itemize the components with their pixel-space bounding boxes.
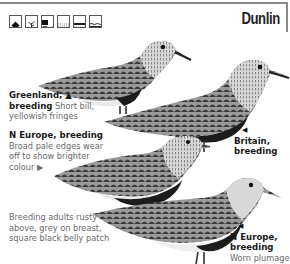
mudflat-icon [73,15,86,28]
caption-general-line3: square black belly patch [9,233,109,243]
caption-greenland-heading: Greenland, ▲ [9,90,72,100]
caption-n-europe-2-heading2: breeding [230,242,273,252]
caption-general-line1: Breeding adults rusty [9,212,97,222]
caption-britain-heading: Britain, [234,136,270,146]
marsh-icon [57,15,70,28]
tree-icon [25,15,38,28]
caption-greenland-text2: yellowish fringes [9,111,78,121]
caption-n-europe-1-line3: colour ▶ [9,162,43,172]
caption-britain: ◀ Britain, breeding [234,124,290,157]
page-border-right [286,2,288,32]
caption-greenland: Greenland, ▲ breeding Short bill, yellow… [9,90,129,122]
caption-britain-heading2: breeding [234,146,277,156]
caption-n-europe-2-heading: N Europe, [230,232,278,242]
caption-greenland-heading2: breeding [9,101,52,111]
caption-n-europe-2-text: Worn plumage [230,253,290,263]
caption-n-europe-1: N Europe, breeding Broad pale edges wear… [9,130,129,172]
caption-n-europe-1-line1: Broad pale edges wear [9,141,103,151]
caption-general: Breeding adults rusty above, grey on bre… [9,212,119,244]
house-icon [9,15,22,28]
caption-general-line2: above, grey on breast, [9,223,102,233]
page-border-top [0,2,288,4]
caption-n-europe-1-heading: N Europe, breeding [9,130,103,140]
species-title: Dunlin [242,10,280,28]
sea-icon [89,15,102,28]
caption-n-europe-1-line2: off to show brighter [9,151,90,161]
caption-n-europe-2: ◀ N Europe, breeding Worn plumage [230,220,290,263]
caption-greenland-text1: Short bill, [52,101,94,111]
arrow-left-icon: ◀ [238,222,243,230]
habitat-icons [9,15,102,28]
arrow-left-icon: ◀ [242,126,247,134]
coast-icon [41,15,54,28]
